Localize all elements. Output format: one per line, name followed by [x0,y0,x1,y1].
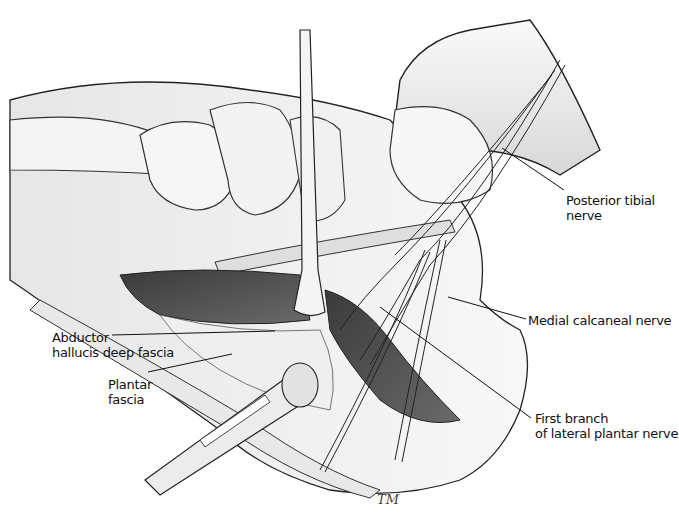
illustration-figure: Posterior tibial nerve Medial calcaneal … [0,0,679,516]
label-first-branch-lateral-plantar-nerve: First branch of lateral plantar nerve [535,411,678,441]
label-line: hallucis deep fascia [52,345,174,360]
label-medial-calcaneal-nerve: Medial calcaneal nerve [528,313,671,328]
label-line: Posterior tibial [566,193,655,208]
label-abductor-hallucis-deep-fascia: Abductor hallucis deep fascia [52,330,174,360]
label-line: fascia [108,392,144,407]
label-line: Plantar [108,377,152,392]
label-line: First branch [535,411,608,426]
label-line: Medial calcaneal nerve [528,313,671,328]
label-plantar-fascia: Plantar fascia [108,377,152,407]
label-posterior-tibial-nerve: Posterior tibial nerve [566,193,655,223]
artist-signature: TM [377,492,399,507]
label-line: Abductor [52,330,109,345]
label-line: nerve [566,208,602,223]
label-line: of lateral plantar nerve [535,426,678,441]
